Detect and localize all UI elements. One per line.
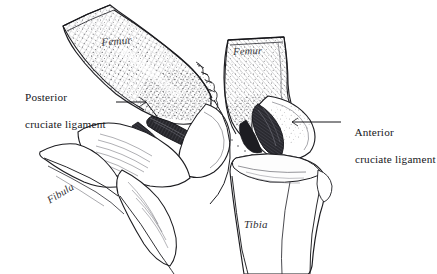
- label-anterior-line2: cruciate ligament: [343, 153, 436, 166]
- label-posterior-line1: Posterior: [25, 91, 67, 103]
- label-femur-right: Femur: [233, 45, 262, 58]
- label-posterior-cruciate-ligament: Posterior cruciate ligament: [13, 78, 106, 157]
- label-femur-left: Femur: [101, 33, 132, 49]
- label-anterior-cruciate-ligament: Anterior cruciate ligament: [343, 113, 436, 192]
- right-tibia-bone: [230, 154, 326, 274]
- anatomical-figure: Posterior cruciate ligament Anterior cru…: [0, 0, 437, 274]
- label-posterior-line2: cruciate ligament: [13, 118, 106, 131]
- right-knee-view: [224, 37, 341, 274]
- label-tibia: Tibia: [244, 218, 268, 231]
- label-anterior-line1: Anterior: [354, 126, 394, 138]
